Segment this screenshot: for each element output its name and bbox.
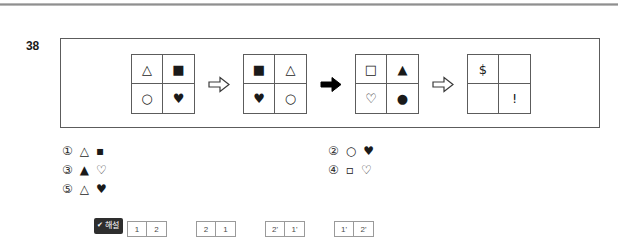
- mini-pair-1-left: 1: [128, 222, 147, 236]
- triangle-outline-icon: △: [80, 183, 89, 195]
- grid-3-cell-tl: □: [356, 55, 387, 84]
- dollar-sign-text: $: [479, 63, 487, 76]
- check-icon: ✔: [97, 222, 103, 229]
- grid-2-cell-tr: △: [275, 55, 306, 84]
- mini-pair-4: 1' 2': [334, 221, 374, 237]
- grid-2: ■ △ ♥ ○: [243, 54, 307, 114]
- arrow-hollow-1-icon: [208, 76, 230, 93]
- grid-4-cell-tl: $: [468, 55, 499, 84]
- grid-4-cell-tr: [499, 55, 530, 84]
- top-divider-rule: [0, 3, 618, 6]
- arrow-hollow-2-icon: [432, 76, 454, 93]
- explanation-badge-label: 해설: [105, 220, 119, 231]
- heart-filled-icon: ♥: [96, 183, 107, 195]
- mini-pair-2-right: 1: [216, 222, 235, 236]
- heart-filled-icon: ♥: [363, 145, 374, 157]
- circle-outline-icon: ○: [285, 92, 296, 105]
- square-filled-small-icon: ▪: [96, 145, 104, 157]
- mini-pair-2-left: 2: [197, 222, 216, 236]
- answer-option-5[interactable]: ⑤ △ ♥: [62, 183, 107, 195]
- grid-4-cell-bl: [468, 84, 499, 113]
- grid-3: □ ▲ ♡ ●: [355, 54, 419, 114]
- option-2-number: ②: [328, 145, 339, 157]
- square-filled-icon: ■: [172, 63, 184, 76]
- arrow-solid-1-icon: [320, 76, 342, 93]
- grid-4: $ !: [467, 54, 531, 114]
- triangle-outline-icon: △: [80, 145, 89, 157]
- option-3-number: ③: [62, 164, 73, 176]
- exclamation-mark-text: !: [512, 92, 517, 105]
- sequence-row: △ ■ ○ ♥ ■ △ ♥ ○ □ ▲ ♡ ●: [61, 39, 601, 129]
- option-1-number: ①: [62, 145, 73, 157]
- grid-2-cell-bl: ♥: [244, 84, 275, 113]
- grid-3-cell-tr: ▲: [387, 55, 418, 84]
- grid-3-cell-br: ●: [387, 84, 418, 113]
- circle-outline-icon: ○: [141, 92, 152, 105]
- heart-outline-icon: ♡: [96, 164, 107, 176]
- grid-1-cell-bl: ○: [132, 84, 163, 113]
- mini-pair-2: 2 1: [196, 221, 236, 237]
- option-5-number: ⑤: [62, 183, 73, 195]
- mini-pair-4-left: 1': [335, 222, 354, 236]
- mini-pair-1: 1 2: [127, 221, 167, 237]
- answer-option-4[interactable]: ④ ▫ ♡: [328, 164, 372, 176]
- triangle-outline-icon: △: [142, 63, 152, 76]
- explanation-strip: ✔ 해설: [0, 216, 618, 237]
- answer-options: ① △ ▪ ③ ▲ ♡ ⑤ △ ♥ ② ○ ♥ ④ ▫ ♡: [0, 143, 618, 201]
- triangle-filled-icon: ▲: [398, 63, 408, 76]
- grid-1-cell-tr: ■: [163, 55, 194, 84]
- triangle-outline-icon: △: [286, 63, 296, 76]
- heart-outline-icon: ♡: [365, 92, 377, 105]
- mini-pair-4-right: 2': [354, 222, 373, 236]
- mini-pair-3-left: 2': [266, 222, 285, 236]
- explanation-badge[interactable]: ✔ 해설: [94, 218, 123, 234]
- grid-4-cell-br: !: [499, 84, 530, 113]
- answer-option-1[interactable]: ① △ ▪: [62, 145, 104, 157]
- mini-pair-1-right: 2: [147, 222, 166, 236]
- mini-pair-3: 2' 1': [265, 221, 305, 237]
- heart-filled-icon: ♥: [173, 92, 185, 105]
- answer-option-3[interactable]: ③ ▲ ♡: [62, 164, 107, 176]
- answer-option-2[interactable]: ② ○ ♥: [328, 145, 374, 157]
- square-filled-icon: ■: [253, 63, 265, 76]
- question-number: 38: [26, 39, 39, 53]
- square-outline-small-icon: ▫: [346, 164, 354, 176]
- mini-pair-3-right: 1': [285, 222, 304, 236]
- grid-3-cell-bl: ♡: [356, 84, 387, 113]
- circle-outline-icon: ○: [346, 145, 356, 157]
- grid-1: △ ■ ○ ♥: [131, 54, 195, 114]
- grid-2-cell-tl: ■: [244, 55, 275, 84]
- option-4-number: ④: [328, 164, 339, 176]
- triangle-filled-icon: ▲: [80, 164, 89, 176]
- problem-frame: △ ■ ○ ♥ ■ △ ♥ ○ □ ▲ ♡ ●: [60, 38, 600, 128]
- grid-1-cell-tl: △: [132, 55, 163, 84]
- grid-1-cell-br: ♥: [163, 84, 194, 113]
- square-outline-icon: □: [365, 63, 377, 76]
- grid-2-cell-br: ○: [275, 84, 306, 113]
- heart-outline-icon: ♡: [361, 164, 372, 176]
- heart-filled-icon: ♥: [253, 92, 265, 105]
- circle-filled-icon: ●: [397, 92, 408, 105]
